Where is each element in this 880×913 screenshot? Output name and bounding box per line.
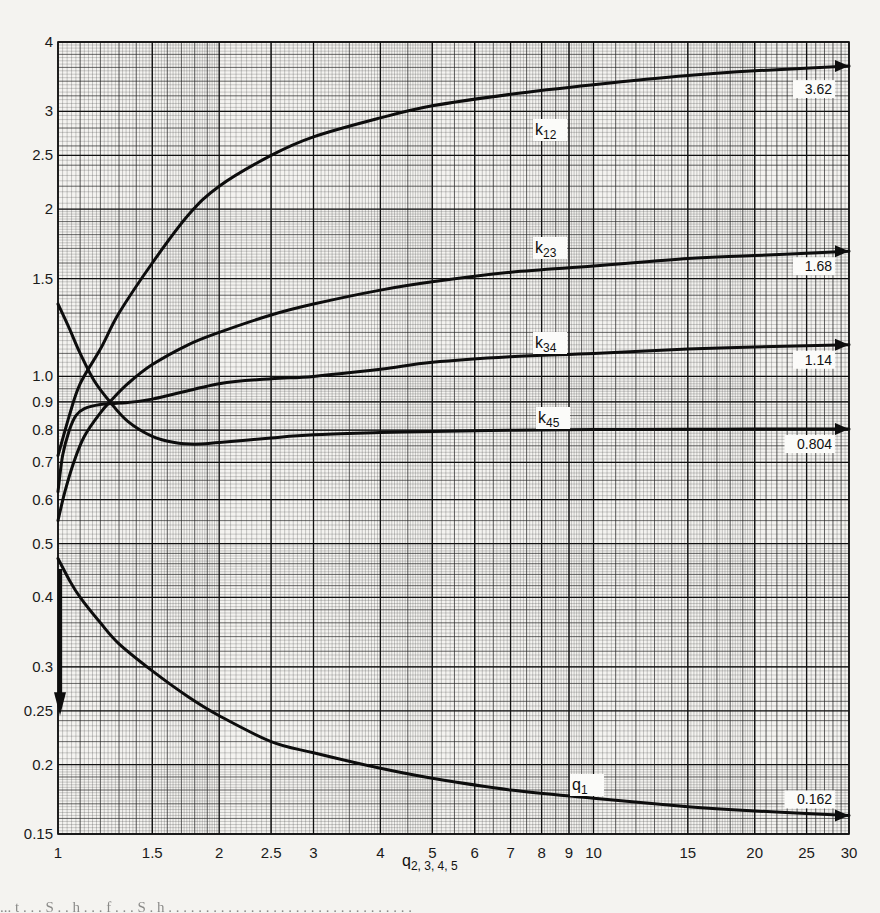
x-tick-label: 3 xyxy=(309,844,317,861)
y-tick-label: 3 xyxy=(45,102,53,119)
asymptote-value-k23: 1.68 xyxy=(805,258,832,274)
y-tick-label: 1.5 xyxy=(32,270,53,287)
cropped-caption-text: ... t . . . S . . h . . . f . . . S . h … xyxy=(0,899,880,913)
y-tick-label: 0.5 xyxy=(32,535,53,552)
x-tick-label: 20 xyxy=(746,844,763,861)
y-tick-label: 0.6 xyxy=(32,491,53,508)
log-log-chart: 0.150.20.250.30.40.50.60.70.80.91.01.522… xyxy=(0,0,880,913)
asymptote-value-k12: 3.62 xyxy=(805,81,832,97)
x-tick-label: 10 xyxy=(585,844,602,861)
y-tick-label: 2.5 xyxy=(32,146,53,163)
y-tick-label: 0.9 xyxy=(32,393,53,410)
x-tick-label: 6 xyxy=(471,844,479,861)
x-tick-label: 2 xyxy=(215,844,223,861)
x-tick-label: 2.5 xyxy=(261,844,282,861)
x-tick-label: 9 xyxy=(565,844,573,861)
x-tick-label: 25 xyxy=(798,844,815,861)
y-tick-label: 2 xyxy=(45,200,53,217)
x-tick-label: 8 xyxy=(537,844,545,861)
y-tick-label: 0.2 xyxy=(32,756,53,773)
x-tick-label: 1.5 xyxy=(142,844,163,861)
asymptote-value-q1: 0.162 xyxy=(797,791,832,807)
asymptote-value-k45: 0.804 xyxy=(797,436,832,452)
x-tick-label: 1 xyxy=(54,844,62,861)
asymptote-value-k34: 1.14 xyxy=(805,352,832,368)
x-tick-label: 7 xyxy=(506,844,514,861)
y-tick-label: 0.7 xyxy=(32,453,53,470)
x-tick-label: 4 xyxy=(376,844,384,861)
y-tick-label: 0.4 xyxy=(32,588,53,605)
y-tick-label: 0.25 xyxy=(24,702,53,719)
x-axis-title-sub: 2, 3, 4, 5 xyxy=(411,859,458,873)
x-tick-label: 30 xyxy=(841,844,858,861)
y-tick-label: 0.15 xyxy=(24,825,53,842)
y-tick-label: 4 xyxy=(45,33,53,50)
y-tick-label: 0.8 xyxy=(32,421,53,438)
x-axis-title-main: q xyxy=(402,852,411,869)
x-axis-title: q2, 3, 4, 5 xyxy=(402,852,458,873)
y-tick-label: 1.0 xyxy=(32,367,53,384)
y-tick-label: 0.3 xyxy=(32,658,53,675)
x-tick-label: 15 xyxy=(679,844,696,861)
